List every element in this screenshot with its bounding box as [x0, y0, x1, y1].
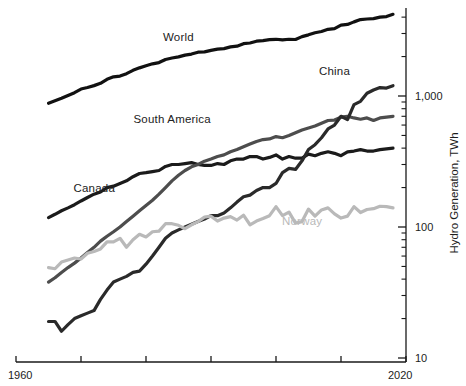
series-label-world: World	[163, 31, 194, 43]
y-tick-label-10: 10	[415, 352, 427, 364]
chart-series-lines	[49, 14, 394, 331]
series-label-norway: Norway	[282, 215, 322, 227]
series-line-world	[49, 14, 394, 103]
y-tick-label-1000: 1,000	[415, 90, 443, 102]
y-tick-label-100: 100	[415, 221, 433, 233]
x-tick-label-end: 2020	[388, 369, 412, 381]
x-tick-label-start: 1960	[8, 369, 32, 381]
series-label-south-america: South America	[134, 113, 211, 125]
y-axis-title: Hydro Generation, TWh	[444, 0, 464, 386]
series-label-china: China	[319, 65, 350, 77]
series-line-south-america	[49, 116, 394, 282]
y-axis-title-text: Hydro Generation, TWh	[448, 132, 460, 253]
chart-plot-area	[0, 0, 466, 386]
series-label-canada: Canada	[74, 182, 115, 194]
hydro-generation-chart: 1,000 100 10 1960 2020 Hydro Generation,…	[0, 0, 466, 386]
series-line-china	[49, 86, 394, 332]
